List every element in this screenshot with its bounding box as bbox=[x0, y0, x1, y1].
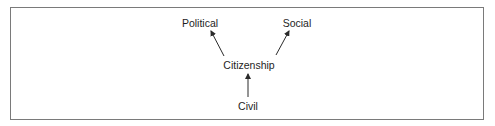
node-political: Political bbox=[182, 17, 218, 29]
node-civil: Civil bbox=[238, 100, 258, 112]
arrow-citizenship-to-political bbox=[211, 31, 224, 56]
node-citizenship: Citizenship bbox=[223, 59, 274, 71]
arrow-citizenship-to-social bbox=[276, 31, 289, 55]
node-social: Social bbox=[283, 17, 312, 29]
